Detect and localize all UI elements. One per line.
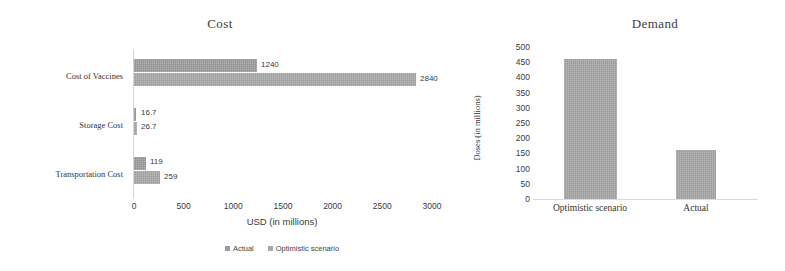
y-tick: 0 xyxy=(525,194,530,204)
y-tick: 250 xyxy=(516,118,530,128)
y-tick: 450 xyxy=(516,57,530,67)
legend-swatch-icon xyxy=(225,246,230,251)
y-tick: 150 xyxy=(516,148,530,158)
demand-chart-title: Demand xyxy=(570,16,740,32)
data-label-transportation-cost-optimistic: 259 xyxy=(164,172,177,181)
bar-demand-actual[interactable] xyxy=(676,150,716,199)
cost-x-axis-title: USD (in millions) xyxy=(133,216,431,227)
x-tick: 1000 xyxy=(224,201,243,211)
legend-item-actual[interactable]: Actual xyxy=(225,244,254,253)
x-tick: 0 xyxy=(132,201,137,211)
cost-chart: Cost Cost of Vaccines Storage Cost Trans… xyxy=(0,0,460,271)
x-tick: 2000 xyxy=(323,201,342,211)
data-label-cost-of-vaccines-actual: 1240 xyxy=(261,60,279,69)
demand-y-axis-title: Doses (in millions) xyxy=(472,73,482,183)
y-tick: 300 xyxy=(516,103,530,113)
cost-x-axis-ticks: 0 500 1000 1500 2000 2500 3000 xyxy=(133,201,431,215)
demand-category-label: Actual xyxy=(683,203,708,213)
legend-item-optimistic-scenario[interactable]: Optimistic scenario xyxy=(268,244,339,253)
bar-cost-of-vaccines-optimistic[interactable] xyxy=(134,73,416,86)
x-tick: 500 xyxy=(177,201,191,211)
bar-transportation-cost-actual[interactable] xyxy=(134,157,146,170)
bar-cost-of-vaccines-actual[interactable] xyxy=(134,59,257,72)
cost-legend: Actual Optimistic scenario xyxy=(133,244,431,253)
bar-transportation-cost-optimistic[interactable] xyxy=(134,171,160,184)
demand-chart: Demand Doses (in millions) 500 450 400 3… xyxy=(460,0,785,271)
demand-category-label: Optimistic scenario xyxy=(553,203,627,213)
cost-category-axis: Cost of Vaccines Storage Cost Transporta… xyxy=(0,50,128,198)
data-label-storage-cost-optimistic: 26.7 xyxy=(141,122,157,131)
x-tick: 2500 xyxy=(373,201,392,211)
data-label-transportation-cost-actual: 119 xyxy=(150,157,163,166)
legend-label: Actual xyxy=(233,244,254,253)
cost-chart-title: Cost xyxy=(130,16,310,32)
demand-plot-area xyxy=(533,47,758,200)
demand-x-axis-categories: Optimistic scenario Actual xyxy=(533,203,758,219)
bar-demand-optimistic-scenario[interactable] xyxy=(564,59,617,199)
x-tick: 1500 xyxy=(274,201,293,211)
bar-storage-cost-optimistic[interactable] xyxy=(134,122,137,135)
y-tick: 500 xyxy=(516,42,530,52)
y-tick: 100 xyxy=(516,164,530,174)
cost-category-label: Storage Cost xyxy=(79,120,123,130)
legend-label: Optimistic scenario xyxy=(276,244,339,253)
data-label-storage-cost-actual: 16.7 xyxy=(141,108,157,117)
legend-swatch-icon xyxy=(268,246,273,251)
y-tick: 200 xyxy=(516,133,530,143)
y-tick: 50 xyxy=(521,179,530,189)
demand-y-axis-ticks: 500 450 400 350 300 250 200 150 100 50 0 xyxy=(490,47,530,199)
y-tick: 400 xyxy=(516,72,530,82)
cost-category-label: Transportation Cost xyxy=(56,169,123,179)
cost-plot-area: 1240 2840 16.7 26.7 119 259 xyxy=(133,50,431,198)
x-tick: 3000 xyxy=(423,201,442,211)
data-label-cost-of-vaccines-optimistic: 2840 xyxy=(420,74,438,83)
cost-category-label: Cost of Vaccines xyxy=(66,71,123,81)
figure-container: Cost Cost of Vaccines Storage Cost Trans… xyxy=(0,0,785,271)
bar-storage-cost-actual[interactable] xyxy=(134,108,136,121)
y-tick: 350 xyxy=(516,88,530,98)
